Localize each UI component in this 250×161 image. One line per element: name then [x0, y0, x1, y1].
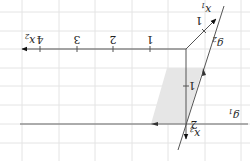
- tick-x2-4: 4: [37, 33, 44, 46]
- label-x3: x3: [189, 125, 200, 140]
- tick-x2-1: 1: [147, 33, 154, 46]
- label-x1: x1: [201, 1, 212, 16]
- tick-x2-3: 3: [74, 33, 81, 46]
- label-g2: g2: [212, 35, 224, 50]
- svg-text:g1: g1: [228, 107, 240, 122]
- svg-text:x3: x3: [189, 125, 200, 140]
- tick-x3-1: 1: [189, 79, 196, 92]
- svg-text:x2: x2: [24, 32, 35, 47]
- label-x2: x2: [24, 32, 35, 47]
- grid: [0, 0, 250, 161]
- svg-text:x1: x1: [201, 1, 212, 16]
- tick-x1-1: 1: [196, 14, 203, 27]
- tick-x2-2: 2: [110, 33, 117, 46]
- diagram-canvas: 1 2 3 4 1 2 1 x2 x1 x3 g1 g2: [0, 0, 250, 161]
- svg-text:g2: g2: [212, 35, 224, 50]
- label-g1: g1: [228, 107, 240, 122]
